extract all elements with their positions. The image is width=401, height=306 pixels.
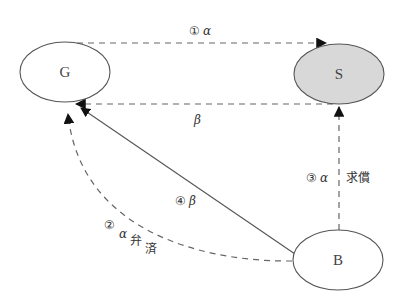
label-1-circled: ①: [189, 24, 200, 38]
label-2-circled: ②: [104, 218, 115, 232]
node-s: S: [294, 44, 384, 104]
label-edge-4: ④ β: [175, 194, 196, 208]
label-4-greek: β: [188, 194, 196, 208]
edge-b-to-g-solid: [81, 108, 295, 254]
label-edge-beta: β: [193, 113, 201, 127]
label-2-text1: 弁: [130, 233, 142, 248]
node-b: B: [293, 230, 383, 290]
label-edge-2: ② α 弁 済: [104, 218, 157, 256]
label-edge-1: ① α: [189, 24, 211, 38]
node-g-label: G: [60, 64, 71, 80]
label-1-greek: α: [203, 24, 211, 38]
label-4-circled: ④: [175, 194, 186, 208]
node-b-label: B: [333, 252, 343, 268]
node-g: G: [20, 42, 110, 102]
label-2-greek: α: [119, 227, 127, 241]
label-3-greek: α: [320, 171, 328, 185]
label-edge-3: ③ α 求償: [306, 171, 370, 185]
label-3-text: 求償: [346, 171, 370, 185]
diagram-canvas: G S B ① α β ③ α 求償 ④ β ② α 弁 済: [0, 0, 401, 306]
label-3-circled: ③: [306, 171, 317, 185]
edge-b-to-g-curve: [68, 114, 292, 261]
label-beta-greek: β: [193, 113, 201, 127]
node-s-label: S: [335, 66, 343, 82]
label-2-text2: 済: [145, 241, 157, 256]
